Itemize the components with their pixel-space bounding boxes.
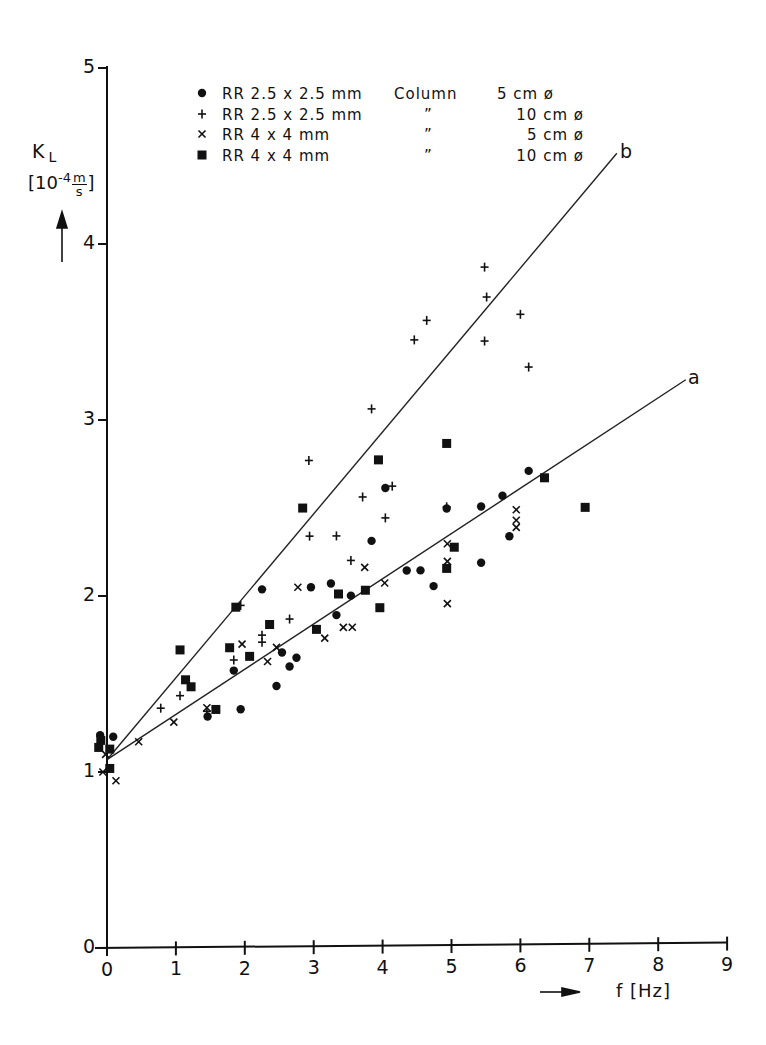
plus-marker-icon [516,310,524,319]
cross-marker-icon [294,584,301,591]
x-tick-label: 9 [721,953,733,975]
square-marker-icon [312,625,321,634]
plus-marker-icon [410,335,418,344]
legend-item: RR 4 x 4 mm”10 cm ø [196,146,584,167]
circle-marker-icon [381,484,389,492]
x-tick-label: 7 [583,954,595,976]
fit-line-label-a: a [688,366,700,388]
circle-marker-icon [505,532,513,540]
axis-arrows [57,212,580,996]
plus-marker-icon [176,691,184,700]
cross-legend-icon [196,125,222,146]
circle-marker-icon [347,591,355,599]
circle-marker-icon [230,666,238,674]
plus-marker-icon [306,532,314,541]
square-marker-icon [375,603,384,612]
fit-lines [107,153,686,759]
legend-column: ” [394,105,514,126]
circle-marker-icon [109,733,117,741]
circle-marker-icon [367,537,375,545]
square-marker-icon [225,643,234,652]
circle-marker-icon [416,566,424,574]
y-axis-subscript: L [48,149,56,165]
square-marker-icon [211,705,220,714]
cross-marker-icon [321,635,328,642]
legend-diameter: 5 cm ø [484,84,554,105]
square-marker-icon [442,564,451,573]
y-axis-label: KL [32,140,56,165]
square-marker-icon [540,473,549,482]
cross-marker-icon [170,719,177,726]
legend-packing: RR 2.5 x 2.5 mm [222,84,394,105]
plus-marker-icon [368,404,376,413]
y-unit-fraction: ms [72,171,87,198]
square-marker-icon [442,439,451,448]
plus-marker-icon [525,363,533,372]
square-marker-icon [361,586,370,595]
x-tick-label: 2 [239,957,251,979]
legend-item: RR 4 x 4 mm”5 cm ø [196,125,584,146]
plus-marker-icon [388,482,396,491]
circle-marker-icon [477,559,485,567]
plus-marker-icon [359,492,367,501]
cross-marker-icon [444,558,451,565]
plus-marker-icon [481,337,489,346]
legend-packing: RR 4 x 4 mm [222,125,394,146]
circle-glyph [198,89,206,97]
x-axis-line [95,943,727,948]
y-unit-exponent: -4 [58,170,71,185]
circle-marker-icon [403,566,411,574]
cross-marker-icon [513,524,520,531]
legend-diameter: 10 cm ø [514,146,584,167]
plus-marker-icon [258,638,266,647]
plus-marker-icon [332,531,340,540]
y-axis-arrow-head-icon [57,212,67,228]
x-tick-label: 8 [652,953,664,975]
x-axis-label: f [Hz] [616,980,671,1001]
data-points [94,263,589,785]
y-axis-unit: [10-4ms] [28,170,95,198]
legend-column: ” [394,125,514,146]
y-tick-label: 0 [83,935,95,957]
legend-column: Column [394,84,484,105]
square-glyph [198,150,207,159]
square-marker-icon [581,503,590,512]
circle-marker-icon [307,583,315,591]
legend-packing: RR 4 x 4 mm [222,146,394,167]
cross-marker-icon [513,517,520,524]
y-tick-label: 2 [83,583,95,605]
plus-marker-icon [286,615,294,624]
square-marker-icon [245,652,254,661]
circle-marker-icon [327,579,335,587]
y-tick-label: 3 [83,407,95,429]
series-circle [96,467,533,741]
circle-marker-icon [272,682,280,690]
legend-diameter: 5 cm ø [514,125,584,146]
legend-packing: RR 2.5 x 2.5 mm [222,105,394,126]
y-unit-numerator: m [72,171,87,185]
y-unit-denominator: s [76,185,83,198]
cross-marker-icon [349,624,356,631]
fit-line-b [107,153,617,759]
y-axis-symbol: K [32,140,44,162]
square-marker-icon [105,764,114,773]
square-marker-icon [231,603,240,612]
circle-marker-icon [498,492,506,500]
y-unit-base: [10 [28,172,58,193]
square-marker-icon [374,455,383,464]
fit-line-label-b: b [620,140,632,162]
x-tick-label: 4 [377,956,389,978]
series-plus [157,263,533,716]
x-tick-label: 0 [101,958,113,980]
cross-marker-icon [513,506,520,513]
axes [95,66,727,956]
legend-item: RR 2.5 x 2.5 mm”10 cm ø [196,105,584,126]
y-unit-close: ] [88,172,95,193]
square-marker-icon [450,543,459,552]
circle-legend-icon [196,84,222,105]
plus-glyph [198,109,206,118]
plus-marker-icon [347,556,355,565]
y-tick-label: 4 [83,231,95,253]
legend: RR 2.5 x 2.5 mmColumn5 cm øRR 2.5 x 2.5 … [196,84,584,166]
legend-item: RR 2.5 x 2.5 mmColumn5 cm ø [196,84,584,105]
